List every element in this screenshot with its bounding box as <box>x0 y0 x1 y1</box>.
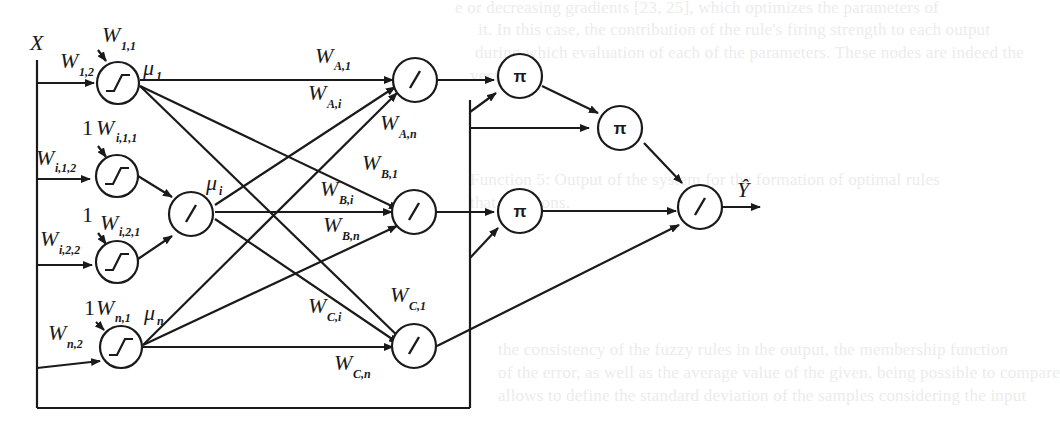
svg-text:μ: μ <box>142 55 154 80</box>
weight-label-Wi21: 1Wi,2,1 <box>82 202 140 239</box>
division-node-C <box>392 324 436 368</box>
weight-label-Wn2: Wn,2 <box>48 320 83 351</box>
svg-text:i: i <box>219 184 223 198</box>
division-node-A <box>393 58 437 102</box>
svg-text:W: W <box>96 295 116 320</box>
sigmoid-node-1 <box>97 62 139 104</box>
weight-label-WCn: WC,n <box>334 350 371 381</box>
svg-text:B,n: B,n <box>341 229 360 243</box>
svg-text:W: W <box>40 226 60 251</box>
svg-text:W: W <box>102 22 122 47</box>
pi-icon: π <box>513 67 526 86</box>
weight-label-Wn1: 1Wn,1 <box>84 295 131 325</box>
svg-text:A,n: A,n <box>398 127 417 141</box>
svg-text:A,i: A,i <box>326 97 342 111</box>
svg-text:i,2,2: i,2,2 <box>59 243 80 257</box>
output-label: Ŷ <box>737 177 752 202</box>
weight-label-WCi: WC,i <box>308 293 342 324</box>
pi-icon: π <box>513 202 526 221</box>
sigmoid-node-n <box>100 326 142 368</box>
weight-label-W12: W1,2 <box>60 48 94 79</box>
svg-text:n,1: n,1 <box>115 311 131 325</box>
svg-text:W: W <box>36 145 56 170</box>
sigmoid-node-i2 <box>96 241 138 283</box>
svg-text:C,1: C,1 <box>409 299 426 313</box>
weight-label-WBn: WB,n <box>323 212 360 243</box>
svg-text:μ: μ <box>143 300 155 325</box>
svg-text:W: W <box>320 176 340 201</box>
sigmoid-node-i1 <box>96 155 138 197</box>
product-node-3: π <box>498 189 542 233</box>
svg-text:W: W <box>308 293 328 318</box>
svg-text:n: n <box>157 314 164 328</box>
weight-label-Wi12: Wi,1,2 <box>36 145 76 175</box>
svg-text:W: W <box>60 48 80 73</box>
division-node-B <box>392 190 436 234</box>
svg-text:C,i: C,i <box>327 310 342 324</box>
weight-label-W11: W1,1 <box>102 22 136 53</box>
svg-text:W: W <box>323 212 343 237</box>
svg-text:n,2: n,2 <box>67 337 83 351</box>
weight-label-WAi: WA,i <box>308 80 342 111</box>
svg-text:W: W <box>100 210 120 235</box>
svg-text:μ: μ <box>205 170 217 195</box>
product-node-2: π <box>598 106 642 150</box>
svg-text:i,1,2: i,1,2 <box>55 161 76 175</box>
svg-text:1: 1 <box>156 69 162 83</box>
svg-text:1,1: 1,1 <box>121 39 136 53</box>
weight-label-Wi11: 1Wi,1,1 <box>82 115 137 145</box>
svg-text:W: W <box>380 110 400 135</box>
svg-text:C,n: C,n <box>353 367 371 381</box>
svg-text:W: W <box>315 43 335 68</box>
svg-text:W: W <box>334 350 354 375</box>
output-division-node <box>678 185 722 229</box>
svg-text:W: W <box>390 282 410 307</box>
mu-label-n: μn <box>143 300 164 328</box>
svg-text:W: W <box>48 320 68 345</box>
pi-icon: π <box>613 119 626 138</box>
division-node-i <box>169 192 213 236</box>
weight-label-Wi22: Wi,2,2 <box>40 226 80 257</box>
svg-text:B,i: B,i <box>338 193 354 207</box>
svg-text:B,1: B,1 <box>380 167 398 181</box>
weight-label-WAn: WA,n <box>380 110 417 141</box>
weight-label-WA1: WA,1 <box>315 43 351 73</box>
svg-text:W: W <box>308 80 328 105</box>
svg-text:1: 1 <box>84 295 95 320</box>
weight-label-WC1: WC,1 <box>390 282 426 313</box>
svg-text:1,2: 1,2 <box>79 65 94 79</box>
mu-label-1: μ1 <box>142 55 162 83</box>
svg-text:1: 1 <box>82 115 93 140</box>
svg-text:W: W <box>362 150 382 175</box>
input-label: X <box>29 30 45 55</box>
svg-text:A,1: A,1 <box>333 59 351 73</box>
svg-text:i,2,1: i,2,1 <box>119 225 140 239</box>
product-node-1: π <box>498 54 542 98</box>
svg-text:1: 1 <box>82 202 93 227</box>
svg-text:W: W <box>96 115 116 140</box>
weight-label-WBi: WB,i <box>320 176 354 207</box>
mu-label-i: μi <box>205 170 223 198</box>
svg-text:i,1,1: i,1,1 <box>116 131 137 145</box>
weight-label-WB1: WB,1 <box>362 150 398 181</box>
